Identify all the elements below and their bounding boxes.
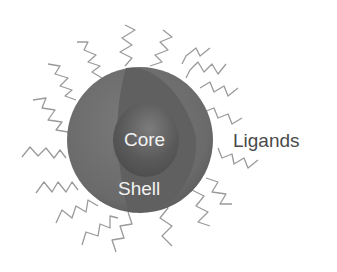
ligands-label: Ligands <box>233 130 300 152</box>
ligand <box>112 212 132 252</box>
ligand <box>182 48 210 64</box>
ligand <box>150 30 172 66</box>
ligand <box>22 147 66 158</box>
ligand <box>186 62 226 78</box>
ligand <box>192 190 210 226</box>
ligand <box>77 42 102 78</box>
ligand <box>36 182 78 193</box>
ligand <box>206 178 232 204</box>
ligand <box>200 82 238 96</box>
shell-label: Shell <box>118 178 160 200</box>
ligand <box>56 200 98 223</box>
ligand <box>33 98 68 132</box>
ligand <box>48 64 76 100</box>
core-label: Core <box>124 129 165 151</box>
ligand <box>120 25 135 66</box>
